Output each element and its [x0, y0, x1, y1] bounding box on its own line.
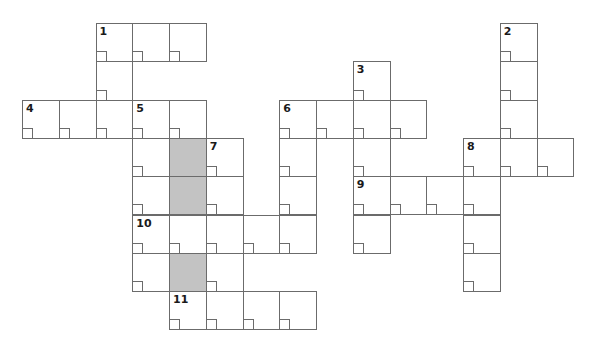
clue-number: 1	[100, 25, 108, 38]
crossword-cell[interactable]	[96, 100, 134, 139]
shaded-cell	[169, 176, 207, 215]
crossword-cell[interactable]	[59, 100, 97, 139]
corner-box	[501, 90, 511, 100]
corner-box	[97, 128, 107, 138]
corner-box	[280, 319, 290, 329]
crossword-cell[interactable]	[353, 100, 391, 139]
crossword-cell[interactable]: 3	[353, 61, 391, 100]
corner-box	[501, 128, 511, 138]
crossword-cell[interactable]	[500, 61, 538, 100]
clue-number: 3	[357, 63, 365, 76]
crossword-cell[interactable]	[279, 215, 317, 254]
corner-box	[354, 204, 364, 214]
crossword-cell[interactable]	[243, 291, 281, 330]
crossword-cell[interactable]	[390, 100, 428, 139]
shaded-cell	[169, 253, 207, 292]
corner-box	[538, 166, 548, 176]
crossword-cell[interactable]: 8	[463, 138, 501, 177]
crossword-cell[interactable]: 6	[279, 100, 317, 139]
crossword-cell[interactable]	[463, 253, 501, 292]
corner-box	[244, 319, 254, 329]
crossword-cell[interactable]: 7	[206, 138, 244, 177]
crossword-cell[interactable]	[169, 23, 207, 62]
corner-box	[170, 319, 180, 329]
crossword-cell[interactable]	[463, 215, 501, 254]
clue-number: 8	[467, 140, 475, 153]
crossword-cell[interactable]	[169, 215, 207, 254]
corner-box	[317, 128, 327, 138]
corner-box	[133, 128, 143, 138]
corner-box	[207, 319, 217, 329]
corner-box	[280, 128, 290, 138]
clue-number: 4	[26, 102, 34, 115]
corner-box	[97, 90, 107, 100]
crossword-cell[interactable]	[463, 176, 501, 215]
crossword-cell[interactable]: 5	[132, 100, 170, 139]
crossword-cell[interactable]: 11	[169, 291, 207, 330]
crossword-cell[interactable]	[132, 23, 170, 62]
crossword-cell[interactable]: 2	[500, 23, 538, 62]
corner-box	[170, 128, 180, 138]
crossword-cell[interactable]	[132, 176, 170, 215]
clue-number: 9	[357, 178, 365, 191]
crossword-cell[interactable]	[316, 100, 354, 139]
crossword-cell[interactable]	[279, 138, 317, 177]
corner-box	[133, 166, 143, 176]
corner-box	[427, 204, 437, 214]
crossword-cell[interactable]	[353, 138, 391, 177]
corner-box	[207, 166, 217, 176]
crossword-grid: 1234567891011	[0, 0, 592, 346]
corner-box	[170, 51, 180, 61]
corner-box	[133, 243, 143, 253]
crossword-cell[interactable]: 4	[22, 100, 60, 139]
corner-box	[133, 204, 143, 214]
corner-box	[60, 128, 70, 138]
corner-box	[133, 281, 143, 291]
shaded-cell	[169, 138, 207, 177]
crossword-cell[interactable]	[353, 215, 391, 254]
crossword-cell[interactable]	[426, 176, 464, 215]
corner-box	[464, 204, 474, 214]
crossword-cell[interactable]	[279, 291, 317, 330]
crossword-cell[interactable]: 9	[353, 176, 391, 215]
corner-box	[207, 243, 217, 253]
corner-box	[501, 166, 511, 176]
crossword-cell[interactable]	[390, 176, 428, 215]
crossword-cell[interactable]	[96, 61, 134, 100]
corner-box	[170, 243, 180, 253]
corner-box	[354, 243, 364, 253]
corner-box	[207, 204, 217, 214]
corner-box	[354, 90, 364, 100]
crossword-cell[interactable]: 1	[96, 23, 134, 62]
corner-box	[23, 128, 33, 138]
corner-box	[391, 128, 401, 138]
corner-box	[501, 51, 511, 61]
crossword-cell[interactable]	[279, 176, 317, 215]
corner-box	[280, 204, 290, 214]
crossword-cell[interactable]	[206, 291, 244, 330]
crossword-cell[interactable]	[537, 138, 575, 177]
crossword-cell[interactable]	[500, 100, 538, 139]
corner-box	[391, 204, 401, 214]
crossword-cell[interactable]	[206, 253, 244, 292]
clue-number: 7	[210, 140, 218, 153]
corner-box	[280, 243, 290, 253]
crossword-cell[interactable]	[206, 176, 244, 215]
clue-number: 2	[504, 25, 512, 38]
corner-box	[280, 166, 290, 176]
crossword-cell[interactable]	[132, 253, 170, 292]
crossword-cell[interactable]	[169, 100, 207, 139]
corner-box	[464, 166, 474, 176]
crossword-cell[interactable]: 10	[132, 215, 170, 254]
clue-number: 5	[136, 102, 144, 115]
crossword-cell[interactable]	[206, 215, 244, 254]
crossword-cell[interactable]	[132, 138, 170, 177]
clue-number: 10	[136, 217, 151, 230]
corner-box	[207, 281, 217, 291]
clue-number: 11	[173, 293, 188, 306]
clue-number: 6	[283, 102, 291, 115]
corner-box	[244, 243, 254, 253]
crossword-cell[interactable]	[243, 215, 281, 254]
crossword-cell[interactable]	[500, 138, 538, 177]
corner-box	[97, 51, 107, 61]
